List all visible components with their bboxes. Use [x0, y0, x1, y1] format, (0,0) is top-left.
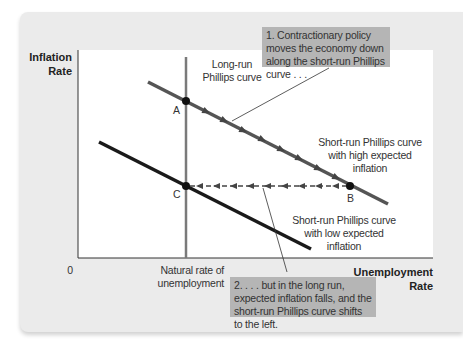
callout-contractionary-policy: 1. Contractionary policy moves the econo… [262, 27, 390, 67]
srpc-high-line1: Short-run Phillips curve [310, 136, 430, 149]
y-axis-label: Inflation Rate [20, 50, 72, 78]
srpc-high-label: Short-run Phillips curve with high expec… [310, 136, 430, 175]
natural-rate-line1: Natural rate of [148, 264, 224, 277]
point-a-label: A [173, 104, 180, 116]
y-axis-label-line1: Inflation [20, 50, 72, 64]
srpc-low-line1: Short-run Phillips curve [284, 214, 404, 227]
srpc-low-line3: inflation [284, 240, 404, 253]
natural-rate-line2: unemployment [148, 277, 224, 290]
origin-label: 0 [64, 264, 76, 277]
point-b-label: B [347, 192, 354, 204]
srpc-low-label: Short-run Phillips curve with low expect… [284, 214, 404, 253]
point-a [182, 97, 190, 105]
point-c-label: C [173, 188, 181, 200]
callout-long-run-shift: 2. . . . but in the long run, expected i… [230, 277, 376, 317]
lrpc-label-line2: Phillips curve [190, 71, 274, 84]
y-axis-label-line2: Rate [20, 64, 72, 78]
srpc-high-line3: inflation [310, 162, 430, 175]
natural-rate-label: Natural rate of unemployment [148, 264, 224, 290]
srpc-high-line2: with high expected [310, 149, 430, 162]
point-c [182, 182, 190, 190]
point-b [346, 182, 354, 190]
srpc-low-line2: with low expected [284, 227, 404, 240]
